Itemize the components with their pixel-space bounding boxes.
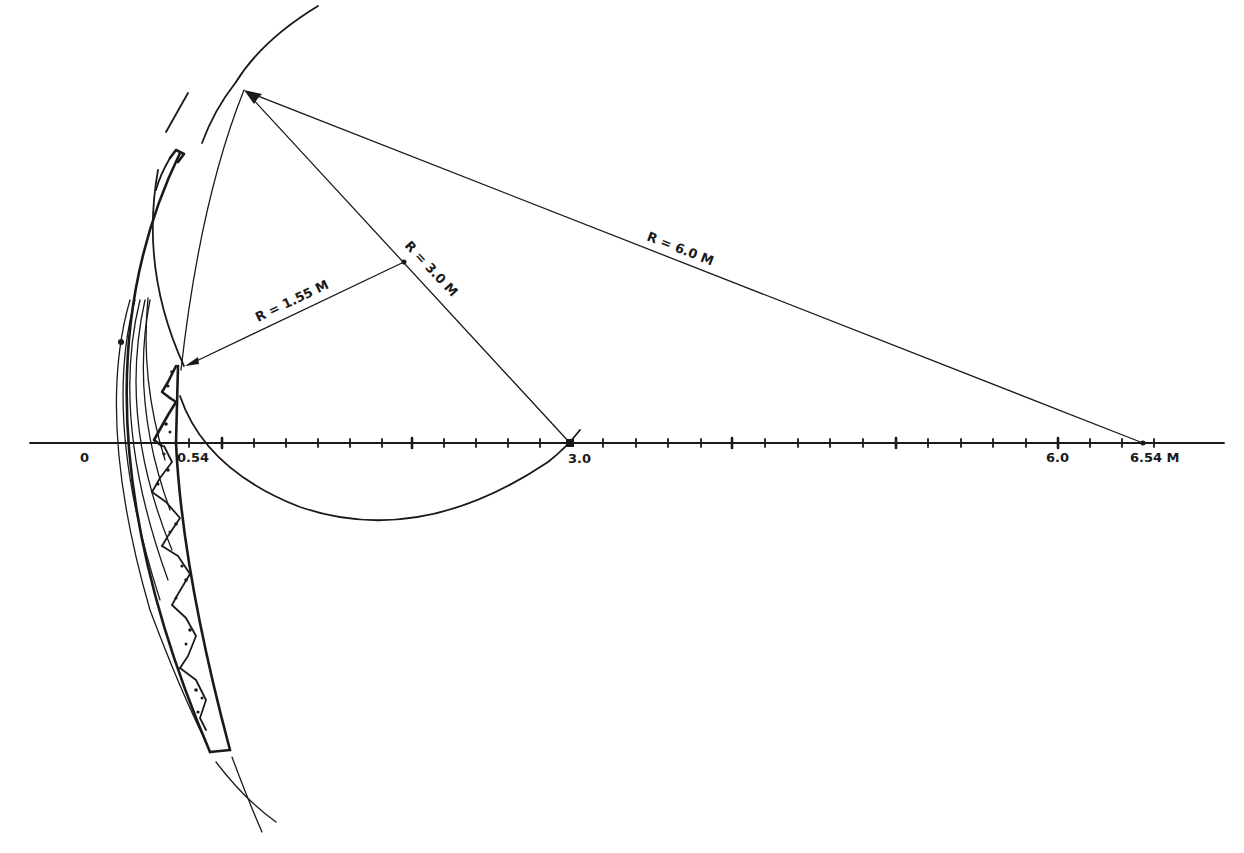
technical-drawing: 0 0.54 3.0 6.0 6.54 M R = 6.0 M R = 3 bbox=[0, 0, 1244, 853]
baseline-axis: 0 0.54 3.0 6.0 6.54 M bbox=[30, 438, 1224, 466]
radius-line-6m bbox=[250, 93, 1143, 443]
axis-label-3-0: 3.0 bbox=[568, 451, 591, 466]
label-r-6m: R = 6.0 M bbox=[645, 229, 716, 269]
construction-arcs bbox=[153, 6, 580, 832]
label-r-1-55m: R = 1.55 M bbox=[253, 277, 331, 325]
axis-label-0: 0 bbox=[80, 450, 89, 465]
radius-line-3m bbox=[250, 96, 570, 443]
radius-lines bbox=[185, 90, 1143, 443]
axis-label-6-54: 6.54 M bbox=[1130, 450, 1180, 465]
arrowhead-icon bbox=[185, 357, 199, 366]
axis-label-6-0: 6.0 bbox=[1046, 450, 1069, 465]
radius-line-1-55m bbox=[188, 262, 404, 365]
label-r-3m: R = 3.0 M bbox=[402, 238, 461, 300]
axis-label-0-54: 0.54 bbox=[177, 450, 209, 465]
